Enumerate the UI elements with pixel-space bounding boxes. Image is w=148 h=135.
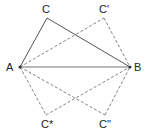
label-c-prime: C' bbox=[99, 3, 109, 15]
triangle-diagram: A B C C' C* C" bbox=[0, 0, 148, 135]
label-c-star: C* bbox=[41, 118, 54, 130]
label-b: B bbox=[134, 61, 141, 73]
point-a-dot bbox=[19, 66, 22, 69]
label-a: A bbox=[6, 61, 14, 73]
point-b-dot bbox=[129, 66, 132, 69]
segment-a-c bbox=[20, 18, 47, 67]
segment-a-c-prime bbox=[20, 18, 104, 67]
label-c-double-prime: C" bbox=[99, 118, 111, 130]
segment-a-c-star bbox=[20, 67, 46, 115]
segment-c-b bbox=[47, 18, 130, 67]
label-c: C bbox=[42, 3, 50, 15]
